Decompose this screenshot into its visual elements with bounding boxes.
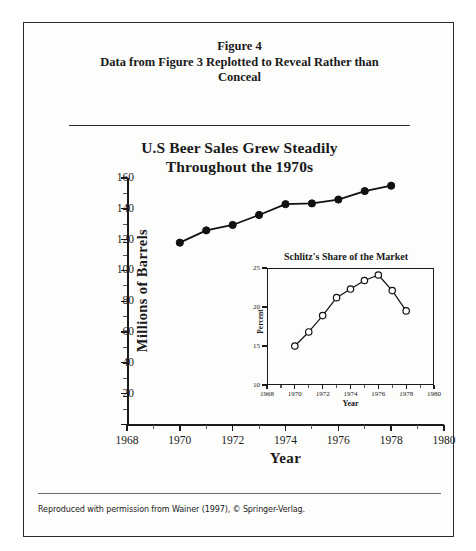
inset-data-point	[375, 272, 381, 278]
data-point	[176, 239, 183, 246]
data-point	[203, 227, 210, 234]
credit-line: Reproduced with permission from Wainer (…	[38, 505, 441, 514]
inset-data-point	[347, 286, 353, 292]
caption-line-3: Conceal	[24, 70, 455, 86]
inset-data-point	[306, 329, 312, 335]
data-point	[335, 196, 342, 203]
main-chart-title-line-1: U.S Beer Sales Grew Steadily	[24, 138, 455, 157]
inset-data-point	[403, 308, 409, 314]
inset-data-point	[333, 294, 339, 300]
y-axis-label: Millions of Barrels	[134, 196, 151, 386]
inset-data-point	[292, 343, 298, 349]
inset-series-svg	[244, 251, 436, 401]
data-point	[361, 187, 368, 194]
figure-caption: Figure 4 Data from Figure 3 Replotted to…	[24, 39, 455, 86]
x-axis-label: Year	[127, 450, 444, 467]
data-point	[282, 201, 289, 208]
inset-x-axis-label: Year	[267, 399, 434, 408]
data-point	[255, 211, 262, 218]
caption-divider	[69, 125, 410, 126]
caption-line-1: Figure 4	[24, 39, 455, 55]
inset-data-point	[319, 312, 325, 318]
inset-data-point	[361, 277, 367, 283]
inset-chart: Schlitz's Share of the Market 10152025 1…	[244, 251, 436, 411]
main-chart-title-line-2: Throughout the 1970s	[24, 157, 455, 176]
data-point	[229, 221, 236, 228]
inset-y-axis-label: Percent	[256, 292, 265, 352]
footer-divider	[38, 493, 441, 494]
figure-page: Figure 4 Data from Figure 3 Replotted to…	[23, 22, 454, 537]
main-chart-title: U.S Beer Sales Grew Steadily Throughout …	[24, 138, 455, 176]
data-point	[308, 200, 315, 207]
inset-data-point	[389, 287, 395, 293]
caption-line-2: Data from Figure 3 Replotted to Reveal R…	[24, 55, 455, 71]
data-point	[388, 182, 395, 189]
